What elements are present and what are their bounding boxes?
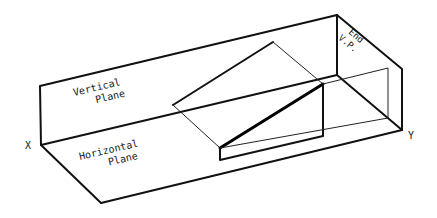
horizontal-plane-label: Horizontal Plane (78, 138, 142, 174)
top-view-outline (220, 84, 323, 160)
end-vp-label: End V.P. (337, 24, 367, 54)
top-view-projection (220, 84, 323, 160)
horizontal-plane (41, 130, 402, 203)
x-point-label: X (25, 140, 31, 151)
vertical-plane-label: Vertical Plane (72, 76, 126, 110)
front-view-left-projector (173, 105, 220, 148)
y-point-label: Y (408, 130, 414, 141)
front-view-right-projector (273, 42, 323, 84)
orthographic-projection-diagram: Vertical Plane Horizontal Plane End V.P.… (0, 0, 437, 218)
side-view-projection (220, 68, 388, 148)
vertical-plane (40, 15, 337, 145)
diagram-canvas: Vertical Plane Horizontal Plane End V.P.… (0, 0, 437, 218)
horizontal-plane-outline (41, 130, 402, 203)
side-view-outline (220, 68, 388, 148)
vertical-plane-outline (40, 15, 337, 145)
